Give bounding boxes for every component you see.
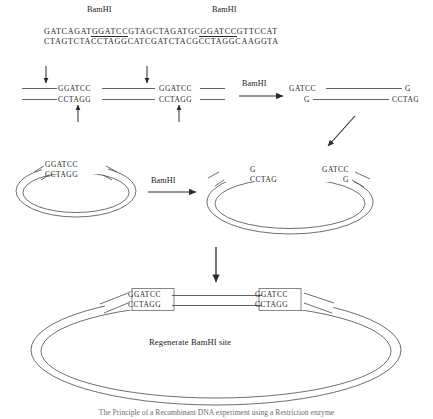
fragment-bottom-right-end: CCTAG bbox=[392, 96, 419, 103]
enzyme-label-plasmid-reaction: BamHI bbox=[151, 177, 176, 185]
plasmid-uncut-top-strand: GGATCC bbox=[45, 161, 78, 168]
plasmid-ligated-circle bbox=[31, 295, 401, 405]
fragment-top-right-end: G bbox=[405, 85, 411, 92]
bottom-strand-pre: CTAGTCTA bbox=[44, 37, 91, 46]
linear-site-right-bottom: CCTAGG bbox=[159, 96, 192, 103]
junction-right-bottom-rest: G bbox=[282, 300, 288, 309]
diagonal-arrow bbox=[328, 116, 355, 146]
linear-site-left-bottom: CCTAGG bbox=[58, 96, 91, 103]
linear-site-left-top: GGATCC bbox=[58, 85, 91, 92]
ligated-junction-right-bottom: CCTAGG bbox=[255, 301, 288, 308]
junction-left-bottom-rest: G bbox=[155, 300, 161, 309]
enzyme-label-top-left: BamHI bbox=[87, 6, 112, 14]
fragment-strand-lines bbox=[313, 89, 402, 100]
enzyme-label-cut-reaction: BamHI bbox=[242, 80, 267, 88]
ligated-junction-right-top: GGATCC bbox=[255, 291, 288, 298]
figure-caption: The Principle of a Recombinant DNA exper… bbox=[0, 408, 433, 417]
plasmid-uncut-bottom-strand: CCTAGG bbox=[45, 171, 78, 178]
plasmid-cut-left-bottom: CCTAG bbox=[250, 176, 277, 183]
junction-right-top-rest: GATCC bbox=[261, 290, 288, 299]
diagram-vector-layer bbox=[0, 0, 433, 419]
plasmid-cut-left-top: G bbox=[250, 166, 256, 173]
bottom-strand-mid: CATCGATCTACG bbox=[128, 37, 199, 46]
plasmid-cut-right-top: GATCC bbox=[322, 166, 349, 173]
fragment-top-left-end: GATCC bbox=[289, 85, 316, 92]
restriction-enzyme-diagram: BamHI BamHI GATCAGATGGATCCGTAGCTAGATGCGG… bbox=[0, 0, 433, 419]
fragment-bottom-left-end: G bbox=[304, 96, 310, 103]
regenerate-site-label: Regenerate BamHI site bbox=[149, 338, 231, 347]
bottom-strand-site-1: CCTAGG bbox=[91, 36, 128, 46]
linear-site-right-top: GGATCC bbox=[159, 85, 192, 92]
cut-arrow-group bbox=[46, 66, 179, 122]
enzyme-label-top-right: BamHI bbox=[212, 6, 237, 14]
plasmid-cut-right-bottom: G bbox=[343, 176, 349, 183]
junction-left-top-rest: GATCC bbox=[134, 290, 161, 299]
linear-dna-strands bbox=[22, 89, 225, 100]
junction-right-bottom-first: CCTAG bbox=[255, 300, 282, 309]
ligated-junction-left-bottom: CCTAGG bbox=[128, 301, 161, 308]
junction-left-bottom-first: CCTAG bbox=[128, 300, 155, 309]
bottom-strand-post: CAAGGTA bbox=[235, 37, 279, 46]
ligated-junction-left-top: GGATCC bbox=[128, 291, 161, 298]
bottom-strand-site-2: CCTAGG bbox=[199, 36, 236, 46]
bottom-strand-sequence: CTAGTCTACCTAGGCATCGATCTACGCCTAGGCAAGGTA bbox=[33, 30, 279, 54]
